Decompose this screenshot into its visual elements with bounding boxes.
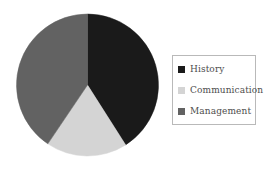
legend-label-history: History [190,64,224,74]
legend-swatch-management [178,108,185,115]
pie-svg [0,0,175,169]
legend-label-communication: Communication [190,85,263,95]
legend-item-management[interactable]: Management [178,101,255,122]
legend-item-communication[interactable]: Communication [178,80,255,101]
legend-item-history[interactable]: History [178,59,255,80]
pie-chart-figure: History Communication Management [0,0,278,169]
legend-label-management: Management [190,106,251,116]
legend-swatch-history [178,66,185,73]
chart-legend: History Communication Management [172,55,256,125]
legend-swatch-communication [178,87,185,94]
pie-plot-area [0,0,175,169]
